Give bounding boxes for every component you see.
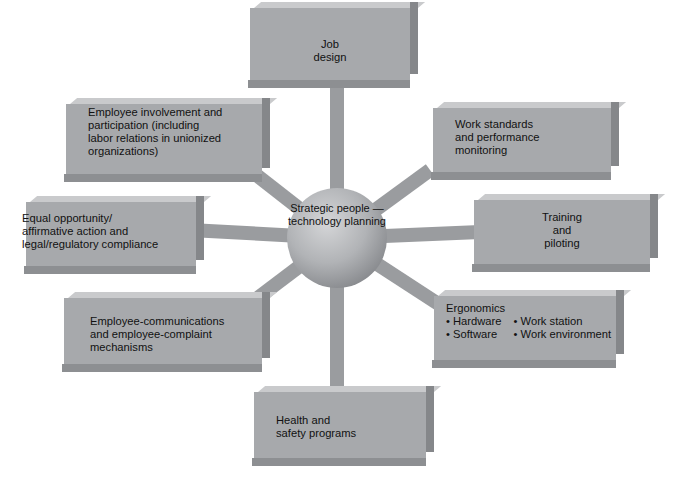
node-label: Employee involvement and [88,106,222,119]
node-employee-communications: Employee-communications and employee-com… [64,298,262,364]
node-label: organizations) [88,145,222,158]
node-label: design [250,51,410,64]
node-title: Ergonomics [446,302,611,315]
node-label: and employee-complaint [90,328,224,341]
node-label: monitoring [455,144,540,157]
node-label: and performance [455,131,540,144]
node-job-design: Job design [250,8,410,80]
node-label: piloting [474,237,650,250]
node-work-standards: Work standards and performance monitorin… [433,108,611,172]
node-health-safety: Health and safety programs [254,392,426,458]
node-label: legal/regulatory compliance [22,238,158,251]
hub-label: planning [344,215,386,227]
node-employee-involvement: Employee involvement and participation (… [66,104,262,174]
node-label: Employee-communications [90,315,224,328]
node-label: Training [474,211,650,224]
bullet-item: Work environment [514,328,612,341]
node-equal-opportunity: Equal opportunity/ affirmative action an… [26,202,196,266]
hub-label: technology [288,215,341,227]
bullet-item: Software [446,328,502,341]
node-ergonomics: Ergonomics Hardware Work station Softwar… [434,296,616,360]
node-label: Equal opportunity/ [22,212,158,225]
node-label: Work standards [455,118,540,131]
hub-label: people — [337,202,384,214]
node-training: Training and piloting [474,200,650,264]
bullet-item: Work station [514,315,612,328]
hub-label: Strategic [290,202,333,214]
node-label: Job [250,38,410,51]
node-label: affirmative action and [22,225,158,238]
ergonomics-bullet-list: Hardware Work station Software Work envi… [446,315,611,341]
bullet-item: Hardware [446,315,502,328]
node-label: labor relations in unionized [88,132,222,145]
node-label: and [474,224,650,237]
node-label: participation (including [88,119,222,132]
node-label: safety programs [276,427,356,440]
central-hub-sphere: Strategic people — technology planning [287,188,387,288]
node-label: Health and [276,414,356,427]
node-label: mechanisms [90,341,224,354]
